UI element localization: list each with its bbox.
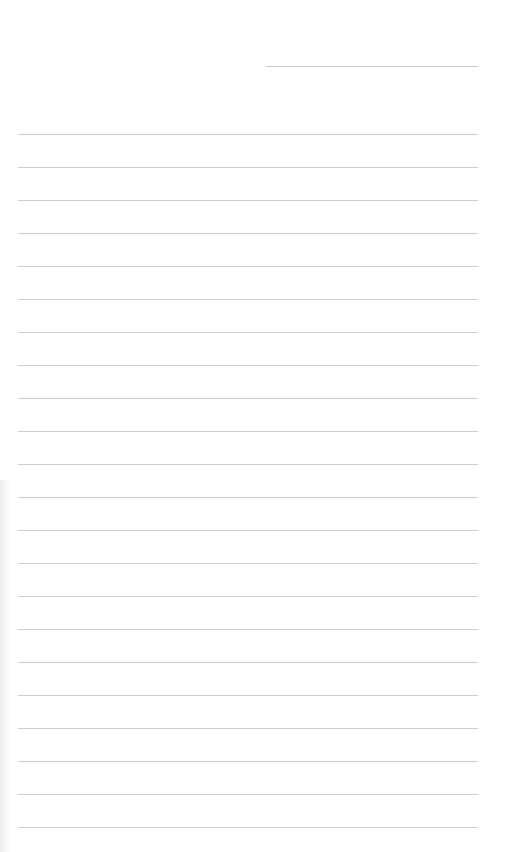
ruled-line (18, 365, 478, 366)
ruled-line (18, 497, 478, 498)
ruled-line (18, 134, 478, 135)
ruled-line (18, 596, 478, 597)
ruled-line (18, 728, 478, 729)
ruled-line (18, 662, 478, 663)
ruled-line (18, 167, 478, 168)
ruled-line (18, 200, 478, 201)
page-edge-shadow (0, 480, 10, 852)
ruled-line (18, 233, 478, 234)
ruled-line (18, 398, 478, 399)
ruled-line (18, 761, 478, 762)
ruled-line (18, 266, 478, 267)
ruled-line (18, 431, 478, 432)
lined-paper-page (0, 0, 506, 852)
date-line (266, 66, 478, 67)
ruled-line (18, 794, 478, 795)
ruled-line (18, 530, 478, 531)
ruled-line (18, 827, 478, 828)
ruled-line (18, 299, 478, 300)
ruled-line (18, 332, 478, 333)
ruled-line (18, 695, 478, 696)
ruled-line (18, 563, 478, 564)
ruled-line (18, 464, 478, 465)
ruled-line (18, 629, 478, 630)
